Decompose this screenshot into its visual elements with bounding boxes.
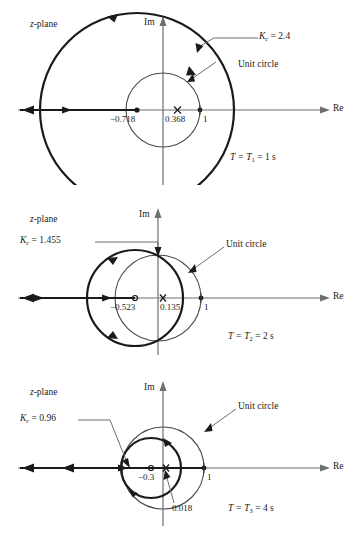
unit-value-label: 1 xyxy=(203,115,208,124)
real-axis-label: Re xyxy=(333,462,344,472)
period-symbol: T = T xyxy=(228,331,250,341)
pole-value-label: −0.3 xyxy=(138,473,154,482)
period-subscript: 3 xyxy=(250,507,253,514)
unit-circle-leader-line xyxy=(204,409,236,432)
zero-leader-line xyxy=(164,470,175,503)
root-locus-panel-3: z-plane Re Im Kc = 0.96 Unit circle −0.3… xyxy=(0,363,361,547)
imaginary-axis xyxy=(160,16,167,185)
period-symbol: T = T xyxy=(230,152,252,162)
root-locus-panel-2: z-plane Re Im Kc = 1.455 Unit circle −0.… xyxy=(0,185,361,363)
gain-value: = 2.4 xyxy=(268,31,290,41)
locus-direction-arrows xyxy=(107,14,196,185)
sampling-period-label: T = T2 = 2 s xyxy=(228,332,274,342)
plane-label-suffix: -plane xyxy=(34,214,58,224)
period-value: = 2 s xyxy=(253,331,274,341)
gain-value: = 0.96 xyxy=(29,413,56,423)
unit-circle-label: Unit circle xyxy=(238,402,278,412)
unit-value-label: 1 xyxy=(204,303,209,312)
unit-point-marker xyxy=(202,463,207,473)
panel-2-plot xyxy=(0,185,361,363)
imaginary-axis xyxy=(155,208,162,355)
plane-label: z-plane xyxy=(30,388,57,398)
plane-label: z-plane xyxy=(30,20,57,30)
open-loop-pole-marker xyxy=(134,107,139,112)
zero-value-label: 0.368 xyxy=(165,115,185,124)
sampling-period-label: T = T1 = 1 s xyxy=(230,153,276,163)
unit-point-marker xyxy=(199,293,204,303)
plane-label-suffix: -plane xyxy=(34,19,58,29)
locus-real-axis-segment xyxy=(20,464,204,473)
period-subscript: 2 xyxy=(250,335,253,342)
period-value: = 4 s xyxy=(253,503,274,513)
z-plane-root-locus-figure: z-plane Re Im Kc = 2.4 Unit circle −0.71… xyxy=(0,0,361,547)
unit-circle-label: Unit circle xyxy=(226,240,266,250)
pole-value-label: −0.718 xyxy=(110,115,135,124)
imaginary-axis-label: Im xyxy=(144,18,155,28)
gain-value: = 1.455 xyxy=(29,235,60,245)
critical-gain-label: Kc = 1.455 xyxy=(20,236,61,246)
imaginary-axis-label: Im xyxy=(139,210,150,220)
period-subscript: 1 xyxy=(252,156,255,163)
critical-gain-label: Kc = 0.96 xyxy=(20,414,56,424)
locus-circle xyxy=(40,13,234,185)
plane-label-suffix: -plane xyxy=(34,387,58,397)
real-axis-label: Re xyxy=(333,104,344,114)
unit-circle-leader-line xyxy=(188,247,224,273)
sampling-period-label: T = T3 = 4 s xyxy=(228,504,274,514)
gain-subscript: c xyxy=(26,239,29,246)
unit-circle-label: Unit circle xyxy=(238,60,278,70)
imaginary-axis xyxy=(160,381,167,526)
zero-value-label: 0.135 xyxy=(160,303,180,312)
gain-subscript: c xyxy=(265,35,268,42)
gain-subscript: c xyxy=(26,417,29,424)
unit-value-label: 1 xyxy=(207,473,212,482)
plane-label: z-plane xyxy=(30,215,57,225)
root-locus-panel-1: z-plane Re Im Kc = 2.4 Unit circle −0.71… xyxy=(0,0,361,185)
zero-value-label: 0.018 xyxy=(172,504,192,513)
period-value: = 1 s xyxy=(255,152,276,162)
pole-value-label: −0.523 xyxy=(110,303,135,312)
critical-gain-label: Kc = 2.4 xyxy=(259,32,290,42)
real-axis-label: Re xyxy=(333,292,344,302)
period-symbol: T = T xyxy=(228,503,250,513)
imaginary-axis-label: Im xyxy=(144,383,155,393)
